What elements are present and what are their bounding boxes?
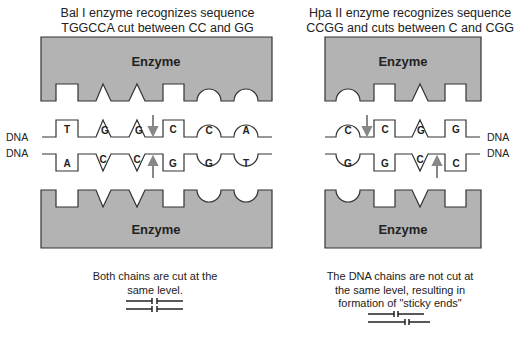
right-top-base-4: G	[452, 124, 460, 135]
left-caption-line2: same level.	[80, 284, 230, 298]
left-caption-line1: Both chains are cut at the	[80, 270, 230, 284]
left-top-base-2: G	[101, 125, 109, 136]
right-caption-line2: the same level, resulting in	[320, 284, 480, 298]
left-top-cut-arrow-icon	[149, 115, 157, 135]
right-top-enzyme	[325, 37, 481, 101]
left-bottom-base-3: C	[133, 154, 140, 165]
left-bottom-base-4: G	[169, 158, 177, 169]
left-top-enzyme-label: Enzyme	[131, 54, 180, 69]
left-bottom-enzyme-label: Enzyme	[131, 222, 180, 237]
right-top-base-1: C	[344, 125, 351, 136]
left-bottom-base-1: A	[63, 158, 70, 169]
left-top-base-5: C	[205, 125, 212, 136]
right-bottom-cut-arrow-icon	[433, 157, 441, 178]
left-top-base-3: G	[135, 125, 143, 136]
left-top-base-6: A	[242, 125, 249, 136]
left-top-dna-label: DNA	[6, 131, 28, 143]
right-bottom-dna-label: DNA	[487, 147, 509, 159]
right-top-enzyme-label: Enzyme	[378, 54, 427, 69]
left-bottom-enzyme	[41, 190, 272, 248]
right-top-base-2: C	[381, 124, 388, 135]
left-bottom-dna-strand	[42, 154, 272, 171]
left-bottom-cut-arrow-icon	[149, 157, 157, 178]
left-top-base-4: C	[169, 124, 176, 135]
left-bottom-base-5: G	[205, 158, 213, 169]
right-caption-line3: formation of "sticky ends"	[320, 297, 480, 311]
right-top-base-3: G	[417, 125, 425, 136]
left-bottom-base-2: C	[99, 154, 106, 165]
left-top-base-1: T	[64, 124, 70, 135]
left-caption: Both chains are cut at the same level.	[80, 270, 230, 297]
right-caption-line1: The DNA chains are not cut at	[320, 270, 480, 284]
left-bottom-dna-label: DNA	[6, 147, 28, 159]
right-caption: The DNA chains are not cut at the same l…	[320, 270, 480, 311]
right-bottom-base-4: C	[452, 158, 459, 169]
right-bottom-base-1: G	[344, 158, 352, 169]
right-top-cut-arrow-icon	[363, 115, 371, 135]
right-bottom-enzyme-label: Enzyme	[378, 222, 427, 237]
left-bottom-base-6: T	[243, 158, 249, 169]
right-bottom-base-3: C	[416, 154, 423, 165]
blunt-end-symbol-icon	[126, 298, 183, 312]
right-bottom-enzyme	[325, 190, 481, 248]
left-top-enzyme	[41, 37, 272, 101]
sticky-end-symbol-icon	[368, 311, 430, 325]
right-top-dna-label: DNA	[487, 131, 509, 143]
right-bottom-base-2: G	[381, 158, 389, 169]
